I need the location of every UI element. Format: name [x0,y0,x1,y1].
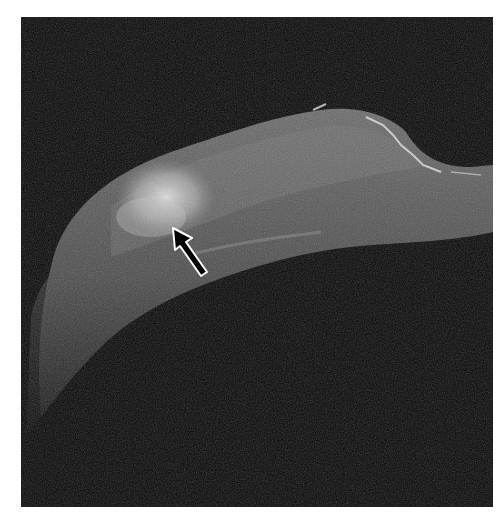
mri-image [21,17,493,507]
mri-image-frame [21,17,493,507]
